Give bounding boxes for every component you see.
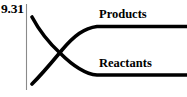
products-label: Products bbox=[99, 8, 147, 21]
reactants-label: Reactants bbox=[99, 57, 152, 70]
figure-container: 9.31 Products Reactants bbox=[0, 0, 187, 97]
reaction-progress-plot bbox=[0, 0, 187, 97]
